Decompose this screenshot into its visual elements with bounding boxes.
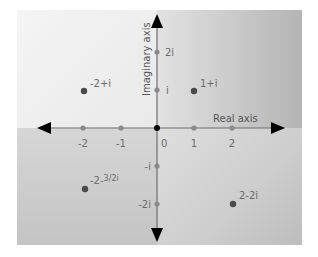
- point-label-1-plus-i: 1+i: [200, 78, 218, 89]
- x-tick-label-m2: -2: [78, 138, 88, 149]
- imaginary-axis-down-arrow-icon: [151, 228, 163, 242]
- point-label-minus2-plus-i: -2+i: [90, 78, 111, 89]
- point-minus2-minus-3-2-i: [82, 186, 88, 192]
- y-tick-label-i: i: [166, 85, 169, 96]
- origin-dot: [154, 125, 160, 131]
- point-minus2-plus-i: [81, 88, 87, 94]
- point-label-2-minus-2i: 2-2i: [239, 190, 258, 201]
- point-label-minus2-minus-3-2-i: -2-3/2i: [90, 174, 119, 186]
- complex-plane-plot: -2 -1 0 1 2 2i i -i -2i Real axis Imagin…: [17, 10, 302, 245]
- x-tick-dot-2: [229, 125, 234, 130]
- y-tick-dot-m2i: [154, 201, 159, 206]
- imaginary-axis-up-arrow-icon: [151, 14, 163, 28]
- y-tick-label-m2i: -2i: [138, 199, 151, 210]
- x-tick-label-m1: -1: [116, 138, 126, 149]
- y-tick-label-2i: 2i: [165, 47, 174, 58]
- imaginary-axis-title: Imaginary axis: [141, 22, 152, 96]
- x-tick-label-1: 1: [191, 138, 197, 149]
- y-tick-dot-mi: [154, 163, 159, 168]
- x-tick-label-0: 0: [161, 138, 167, 149]
- y-tick-label-mi: -i: [145, 161, 151, 172]
- x-tick-dot-1: [191, 125, 196, 130]
- point-1-plus-i: [191, 88, 197, 94]
- y-tick-dot-i: [154, 87, 159, 92]
- real-axis-right-arrow-icon: [271, 122, 285, 134]
- x-tick-dot-m1: [118, 125, 123, 130]
- complex-plane-panel: -2 -1 0 1 2 2i i -i -2i Real axis Imagin…: [17, 10, 302, 245]
- y-tick-dot-2i: [154, 49, 159, 54]
- point-2-minus-2i: [230, 201, 236, 207]
- x-tick-dot-m2: [80, 125, 85, 130]
- real-axis-title: Real axis: [213, 113, 258, 124]
- x-tick-label-2: 2: [229, 138, 235, 149]
- real-axis-left-arrow-icon: [37, 122, 51, 134]
